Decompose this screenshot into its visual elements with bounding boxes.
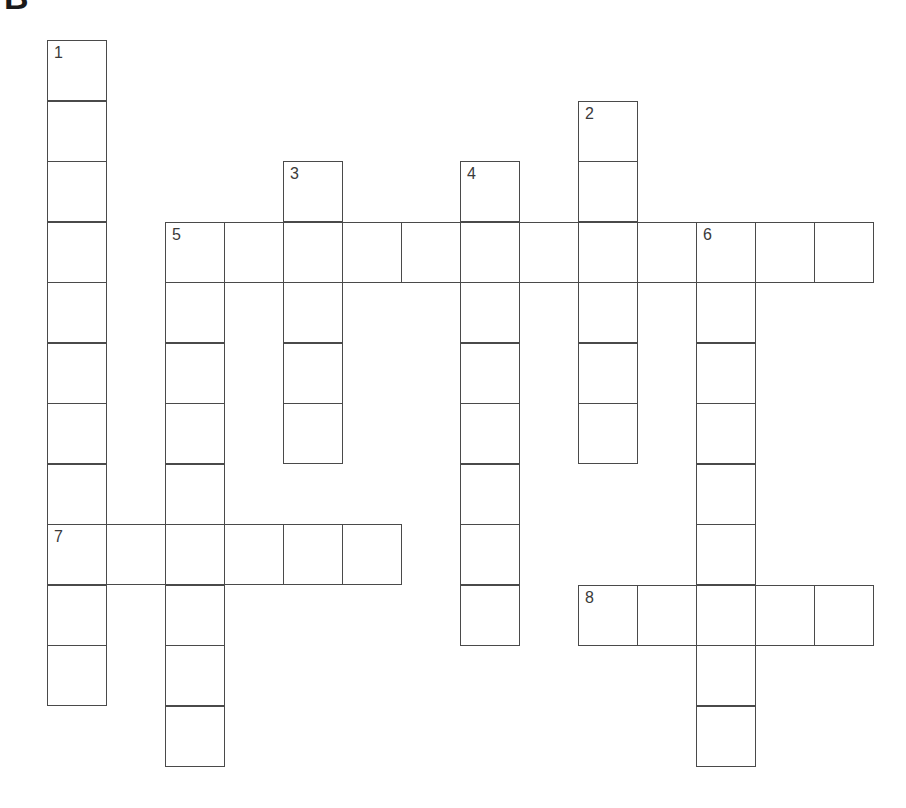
crossword-cell[interactable]	[578, 403, 638, 464]
crossword-cell[interactable]	[401, 222, 461, 283]
crossword-cell[interactable]: 7	[47, 524, 107, 585]
crossword-cell[interactable]	[165, 645, 225, 706]
crossword-cell[interactable]	[47, 343, 107, 404]
clue-number: 6	[703, 226, 712, 244]
crossword-cell[interactable]	[47, 403, 107, 464]
crossword-cell[interactable]	[637, 222, 697, 283]
crossword-cell[interactable]	[578, 282, 638, 343]
crossword-cell[interactable]	[283, 403, 343, 464]
crossword-cell[interactable]: 2	[578, 101, 638, 162]
clue-number: 7	[54, 528, 63, 546]
crossword-cell[interactable]	[283, 222, 343, 283]
crossword-cell[interactable]: 8	[578, 585, 638, 646]
crossword-cell[interactable]	[519, 222, 579, 283]
crossword-cell[interactable]	[283, 343, 343, 404]
crossword-cell[interactable]	[578, 161, 638, 222]
crossword-cell[interactable]	[460, 282, 520, 343]
crossword-cell[interactable]	[47, 282, 107, 343]
crossword-cell[interactable]	[165, 282, 225, 343]
crossword-cell[interactable]	[696, 464, 756, 525]
crossword-cell[interactable]	[755, 585, 815, 646]
crossword-cell[interactable]	[814, 222, 874, 283]
clue-number: 4	[467, 165, 476, 183]
crossword-cell[interactable]	[696, 706, 756, 767]
crossword-cell[interactable]: 5	[165, 222, 225, 283]
crossword-cell[interactable]	[578, 343, 638, 404]
crossword-cell[interactable]: 4	[460, 161, 520, 222]
crossword-cell[interactable]	[696, 282, 756, 343]
crossword-cell[interactable]	[47, 101, 107, 162]
crossword-cell[interactable]	[637, 585, 697, 646]
crossword-cell[interactable]	[165, 585, 225, 646]
crossword-cell[interactable]	[696, 343, 756, 404]
crossword-cell[interactable]	[460, 585, 520, 646]
clue-number: 2	[585, 105, 594, 123]
clue-number: 5	[172, 226, 181, 244]
crossword-cell[interactable]	[460, 524, 520, 585]
crossword-cell[interactable]	[283, 282, 343, 343]
crossword-cell[interactable]: 3	[283, 161, 343, 222]
crossword-cell[interactable]	[696, 645, 756, 706]
crossword-cell[interactable]	[165, 343, 225, 404]
crossword-cell[interactable]	[224, 222, 284, 283]
crossword-cell[interactable]	[460, 222, 520, 283]
crossword-cell[interactable]	[696, 403, 756, 464]
crossword-cell[interactable]	[47, 645, 107, 706]
crossword-cell[interactable]	[165, 524, 225, 585]
crossword-cell[interactable]	[342, 524, 402, 585]
crossword-cell[interactable]	[755, 222, 815, 283]
crossword-cell[interactable]	[47, 222, 107, 283]
clue-number: 3	[290, 165, 299, 183]
crossword-grid: 17234568	[0, 0, 906, 808]
crossword-cell[interactable]	[460, 343, 520, 404]
crossword-cell[interactable]	[106, 524, 166, 585]
crossword-cell[interactable]	[165, 403, 225, 464]
crossword-cell[interactable]: 1	[47, 40, 107, 101]
clue-number: 1	[54, 44, 63, 62]
crossword-cell[interactable]	[47, 585, 107, 646]
crossword-cell[interactable]	[814, 585, 874, 646]
crossword-cell[interactable]	[342, 222, 402, 283]
crossword-cell[interactable]	[47, 464, 107, 525]
crossword-cell[interactable]	[165, 464, 225, 525]
crossword-cell[interactable]	[165, 706, 225, 767]
crossword-cell[interactable]	[283, 524, 343, 585]
crossword-cell[interactable]	[578, 222, 638, 283]
crossword-cell[interactable]	[696, 524, 756, 585]
crossword-cell[interactable]	[224, 524, 284, 585]
crossword-cell[interactable]	[460, 403, 520, 464]
crossword-cell[interactable]: 6	[696, 222, 756, 283]
crossword-cell[interactable]	[47, 161, 107, 222]
crossword-cell[interactable]	[696, 585, 756, 646]
clue-number: 8	[585, 589, 594, 607]
crossword-cell[interactable]	[460, 464, 520, 525]
